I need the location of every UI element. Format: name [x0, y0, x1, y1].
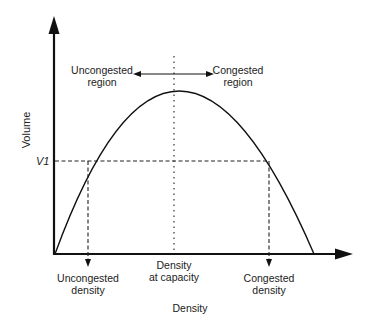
label-line: Uncongested: [71, 64, 133, 76]
x-axis: [53, 249, 353, 260]
region-double-arrow: [133, 71, 214, 77]
v1-tick-label: V1: [36, 155, 49, 167]
label-line: Congested: [240, 272, 298, 284]
down-arrow-icon: [266, 259, 272, 267]
label-line: Density: [144, 259, 204, 271]
y-axis-arrow-icon: [49, 16, 60, 34]
left-arrow-icon: [133, 71, 141, 77]
uncongested-density-marker: [85, 161, 91, 267]
x-axis-label: Density: [165, 302, 215, 314]
label-line: Uncongested: [56, 272, 120, 284]
label-line: at capacity: [144, 271, 204, 283]
uncongested-density-label: Uncongested density: [56, 272, 120, 296]
congested-region-label: Congested region: [212, 64, 264, 88]
label-line: region: [71, 76, 133, 88]
density-at-capacity-label: Density at capacity: [144, 259, 204, 283]
x-axis-arrow-icon: [335, 249, 353, 260]
volume-density-curve: [55, 91, 314, 254]
congested-density-label: Congested density: [240, 272, 298, 296]
uncongested-region-label: Uncongested region: [71, 64, 133, 88]
label-line: density: [56, 284, 120, 296]
label-line: region: [212, 76, 264, 88]
y-axis-label: Volume: [20, 110, 32, 150]
label-line: density: [240, 284, 298, 296]
y-axis: [49, 16, 60, 255]
congested-density-marker: [266, 161, 272, 267]
label-line: Congested: [212, 64, 264, 76]
down-arrow-icon: [85, 259, 91, 267]
